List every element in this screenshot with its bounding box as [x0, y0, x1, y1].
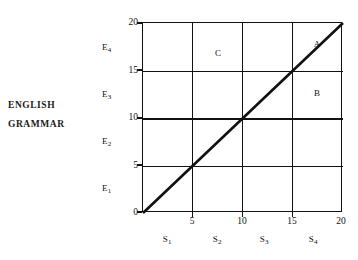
y-band-label-e2-base: E — [102, 136, 108, 146]
y-band-label-e4-sub: 4 — [108, 46, 112, 54]
region-label-c: C — [215, 48, 221, 58]
x-band-label-s4: S4 — [309, 234, 318, 244]
y-band-label-e3-base: E — [102, 89, 108, 99]
x-band-label-s4-sub: 4 — [314, 238, 318, 246]
y-axis-caption-line-2: GRAMMAR — [8, 115, 100, 134]
y-band-label-e4: E4 — [102, 42, 111, 52]
plot-area: C A B — [142, 22, 342, 212]
region-label-a: A — [314, 39, 321, 49]
diagonal-line — [143, 23, 343, 213]
y-tick-label-10: 10 — [129, 112, 139, 122]
region-label-b: B — [314, 88, 320, 98]
y-band-label-e3: E3 — [102, 89, 111, 99]
x-band-label-s1-sub: 1 — [168, 238, 172, 246]
x-tick-label-5: 5 — [190, 216, 195, 226]
x-band-label-s3-sub: 3 — [265, 238, 269, 246]
y-band-label-e3-sub: 3 — [108, 93, 112, 101]
y-band-label-e2: E2 — [102, 136, 111, 146]
x-tick-label-10: 10 — [237, 216, 247, 226]
y-band-label-e2-sub: 2 — [108, 140, 112, 148]
y-band-label-e1: E1 — [102, 183, 111, 193]
cropped-header-remnant — [150, 0, 330, 6]
y-tick-label-5: 5 — [133, 160, 138, 170]
english-grammar-grid-figure: ENGLISH GRAMMAR C A B 20 15 10 5 0 E4 E3 — [0, 0, 358, 260]
y-axis-caption: ENGLISH GRAMMAR — [8, 96, 100, 134]
x-band-label-s2-sub: 2 — [218, 238, 222, 246]
y-band-label-e1-sub: 1 — [108, 187, 112, 195]
x-tick-label-20: 20 — [336, 216, 346, 226]
y-band-label-e4-base: E — [102, 42, 108, 52]
x-tick-labels: 5 10 15 20 — [0, 216, 358, 230]
x-band-label-s3: S3 — [260, 234, 269, 244]
x-band-label-s2: S2 — [213, 234, 222, 244]
x-tick-label-15: 15 — [287, 216, 297, 226]
x-band-label-s1: S1 — [163, 234, 172, 244]
y-axis-caption-line-1: ENGLISH — [8, 96, 100, 115]
y-band-label-e1-base: E — [102, 183, 108, 193]
y-tick-label-15: 15 — [129, 65, 139, 75]
y-tick-label-20: 20 — [129, 17, 139, 27]
